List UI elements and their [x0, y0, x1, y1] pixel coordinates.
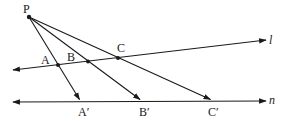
label-a: A	[41, 53, 50, 67]
label-c-prime: C′	[208, 105, 219, 119]
line-l	[13, 40, 266, 70]
label-b-prime: B′	[139, 105, 150, 119]
diagram-canvas: P A B C A′ B′ C′ l n	[0, 0, 281, 121]
label-c: C	[117, 41, 125, 55]
label-b: B	[67, 50, 75, 64]
projection-diagram: P A B C A′ B′ C′ l n	[0, 0, 281, 121]
point-c	[116, 56, 120, 60]
point-a	[56, 63, 60, 67]
point-b	[86, 60, 90, 64]
label-a-prime: A′	[78, 105, 90, 119]
label-line-l: l	[269, 33, 273, 47]
line-n	[13, 101, 266, 102]
label-line-n: n	[269, 93, 275, 107]
label-p: P	[23, 2, 30, 16]
